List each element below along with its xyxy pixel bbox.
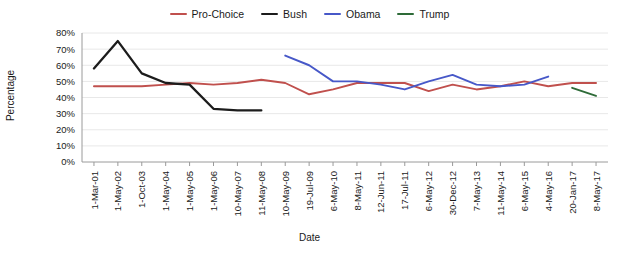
- x-tick-label: 11-May-14: [495, 171, 506, 216]
- y-tick-label: 70%: [56, 44, 76, 55]
- y-tick-label: 80%: [56, 27, 76, 38]
- y-tick-label: 40%: [56, 92, 76, 103]
- x-tick-label: 4-May-16: [543, 171, 554, 211]
- x-tick-label: 10-May-07: [232, 171, 243, 216]
- series-line-trump: [572, 88, 596, 96]
- x-tick-label: 19-Jul-09: [304, 171, 315, 211]
- x-tick-label: 1-May-04: [160, 171, 171, 211]
- x-tick-label: 12-Jun-11: [375, 171, 386, 213]
- x-tick-label: 7-May-13: [471, 171, 482, 211]
- x-tick-label: 1-May-02: [112, 171, 123, 211]
- y-tick-label: 10%: [56, 140, 76, 151]
- x-tick-label: 30-Dec-12: [447, 171, 458, 215]
- plot-area: 0%10%20%30%40%50%60%70%80%1-Mar-011-May-…: [0, 0, 619, 257]
- x-tick-label: 6-May-10: [328, 171, 339, 211]
- x-tick-label: 8-May-11: [352, 171, 363, 210]
- x-tick-label: 1-May-05: [184, 171, 195, 211]
- x-tick-label: 10-May-09: [280, 171, 291, 216]
- x-tick-label: 1-May-06: [208, 171, 219, 211]
- y-tick-label: 50%: [56, 76, 76, 87]
- x-axis-title: Date: [0, 232, 619, 243]
- x-tick-label: 6-May-12: [423, 171, 434, 211]
- x-tick-label: 11-May-08: [256, 171, 267, 216]
- x-tick-label: 1-Oct-03: [136, 171, 147, 208]
- y-tick-label: 30%: [56, 108, 76, 119]
- line-chart: Pro-ChoiceBushObamaTrump Percentage 0%10…: [0, 0, 619, 257]
- x-tick-label: 6-May-15: [519, 171, 530, 211]
- x-tick-label: 8-May-17: [591, 171, 602, 211]
- x-tick-label: 20-Jan-17: [567, 171, 578, 214]
- y-tick-label: 0%: [61, 156, 75, 167]
- y-tick-label: 20%: [56, 124, 76, 135]
- series-line-bush: [94, 41, 261, 110]
- x-tick-label: 1-Mar-01: [89, 171, 100, 210]
- x-tick-label: 17-Jul-11: [399, 171, 410, 210]
- y-tick-label: 60%: [56, 60, 76, 71]
- plot-svg: 0%10%20%30%40%50%60%70%80%1-Mar-011-May-…: [0, 0, 619, 257]
